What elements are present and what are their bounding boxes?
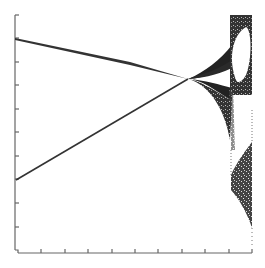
lower-branch (16, 79, 188, 180)
bifurcation-chart (0, 0, 265, 268)
y-axis (15, 15, 19, 253)
upper-fan (188, 45, 232, 140)
chaotic-band-top (229, 15, 252, 150)
x-axis (18, 249, 252, 253)
upper-branch (15, 38, 188, 79)
